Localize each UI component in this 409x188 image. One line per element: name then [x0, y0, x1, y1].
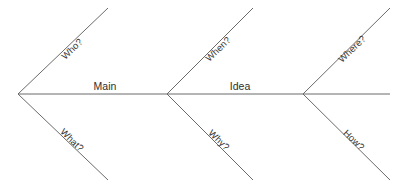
branch-label-what: What?: [59, 127, 86, 153]
fishbone-diagram-canvas: Main Idea Who? What? When? Why? Where? H…: [0, 0, 409, 188]
branch-label-who: Who?: [60, 37, 85, 61]
label-layer: Main Idea Who? What? When? Why? Where? H…: [0, 0, 409, 188]
branch-label-when: When?: [204, 35, 233, 63]
branch-label-why: Why?: [207, 128, 231, 152]
branch-label-how: How?: [342, 128, 366, 152]
branch-label-where: Where?: [337, 34, 368, 64]
spine-label-idea: Idea: [230, 81, 250, 92]
spine-label-main: Main: [94, 81, 117, 92]
